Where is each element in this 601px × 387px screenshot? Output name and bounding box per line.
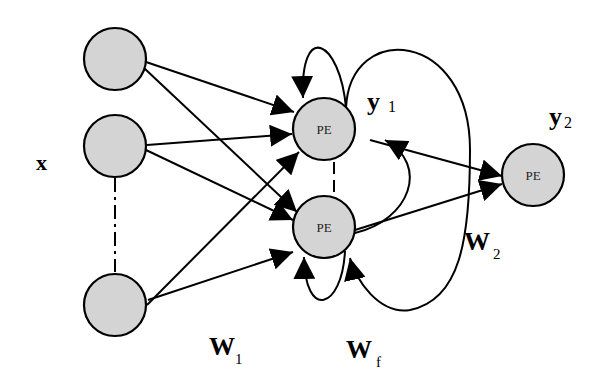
- y1-label: y: [367, 87, 380, 116]
- pe-node-1-label: PE: [316, 122, 331, 137]
- w1-subscript: 1: [235, 351, 243, 367]
- recurrent-network-diagram: PE PE PE x y 1 y 2 W 1 W f W 2: [0, 0, 601, 387]
- wf-label: W: [346, 335, 372, 364]
- w1-edges: [144, 62, 299, 305]
- edge-in1-pe1: [146, 62, 294, 112]
- w2-label: W: [464, 227, 490, 256]
- edge-in3-pe1: [147, 152, 299, 305]
- input-label-x: x: [36, 150, 47, 175]
- feedback-pe2-to-pe1: [355, 140, 410, 233]
- y1-subscript: 1: [388, 98, 396, 115]
- wf-subscript: f: [376, 354, 381, 370]
- pe-node-2-label: PE: [316, 220, 331, 235]
- y2-subscript: 2: [564, 114, 572, 131]
- input-node-3: [84, 274, 146, 336]
- edge-pe1-out: [370, 140, 502, 176]
- edge-in2-pe1: [147, 134, 292, 145]
- y2-label: y: [549, 102, 562, 131]
- w1-label: W: [209, 332, 235, 361]
- edge-in2-pe2: [146, 150, 293, 220]
- w2-subscript: 2: [493, 246, 501, 262]
- input-node-2: [84, 115, 146, 177]
- edge-in3-pe2: [148, 252, 293, 300]
- input-node-1: [84, 28, 146, 90]
- feedback-loop-pe1-to-pe2: [346, 50, 470, 311]
- pe-output-label: PE: [525, 168, 540, 183]
- edge-pe2-out: [355, 184, 502, 230]
